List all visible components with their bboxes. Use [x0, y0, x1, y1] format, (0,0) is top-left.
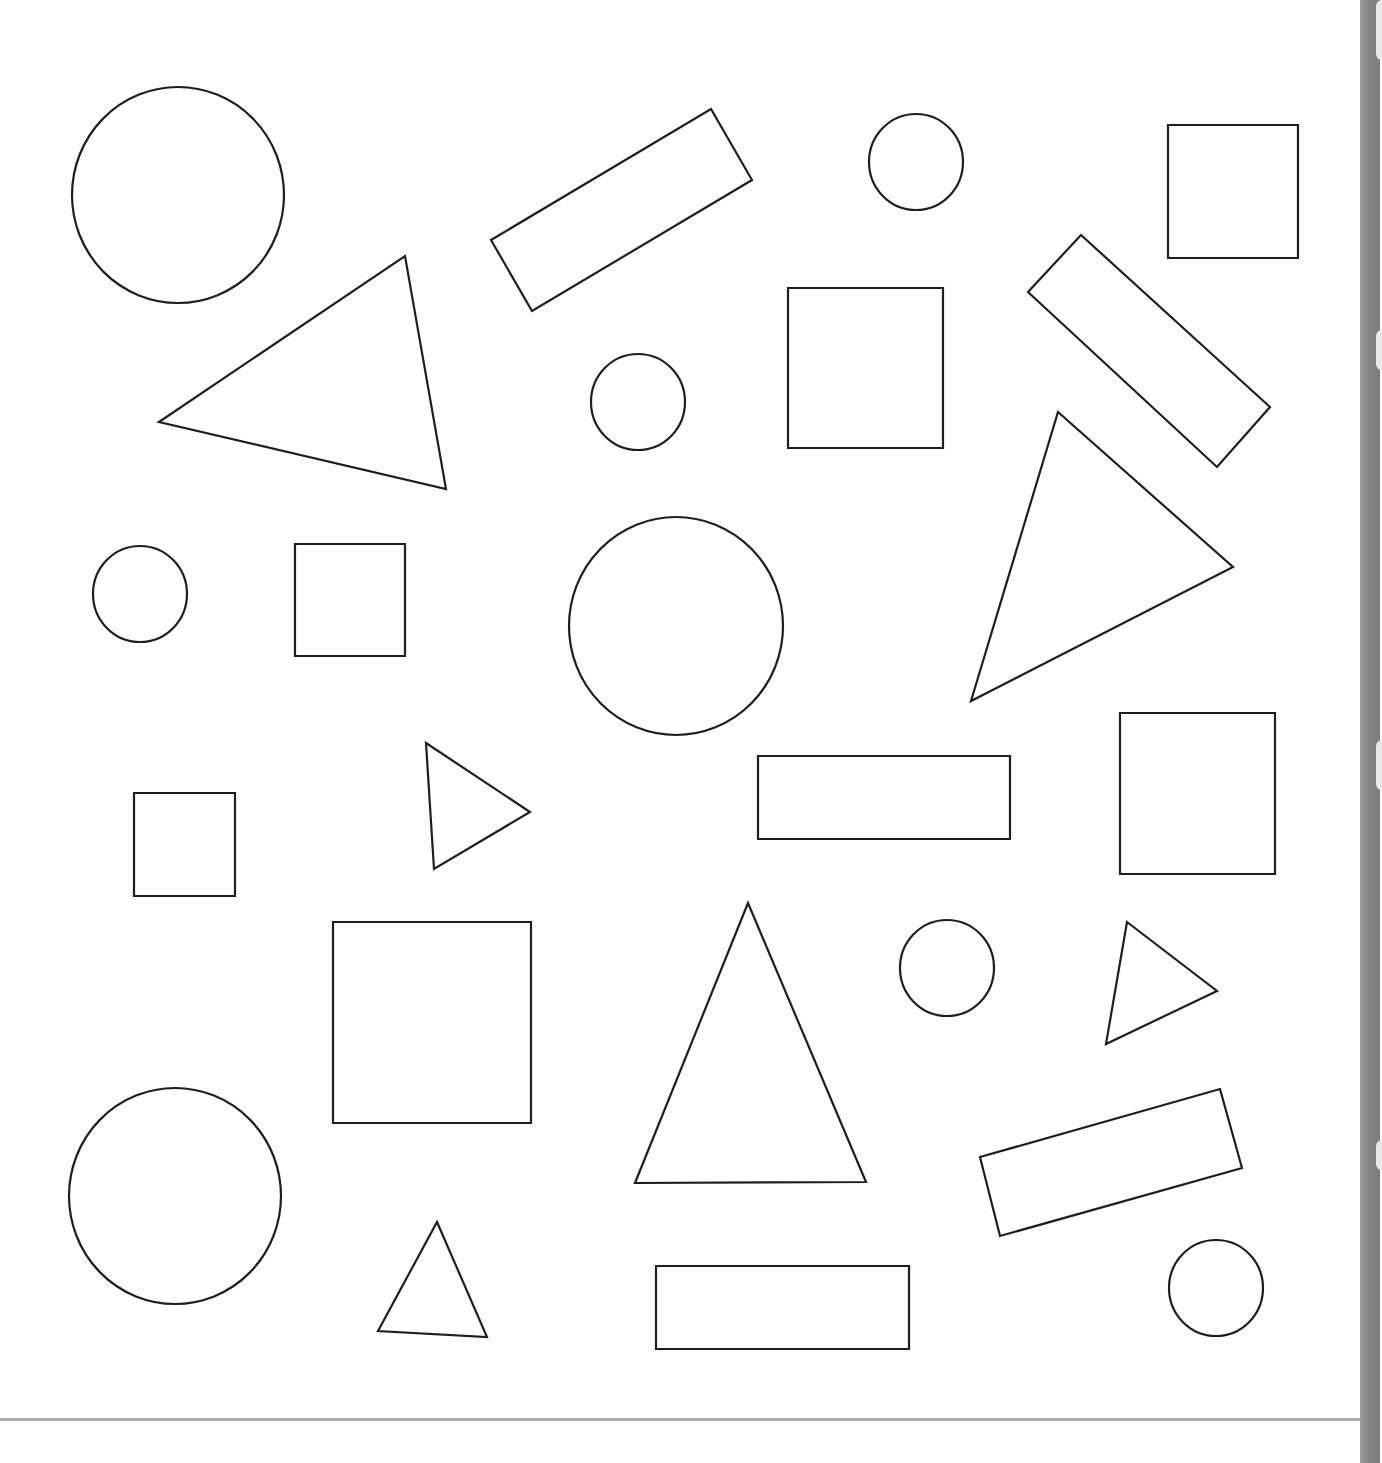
circle-shape	[869, 114, 963, 210]
binder-hole-mark	[1376, 740, 1382, 790]
square-shape	[134, 793, 235, 896]
page-edge-strip	[1360, 0, 1380, 1463]
rectangle-shape	[656, 1266, 909, 1349]
circle-shape	[93, 546, 187, 642]
triangle-shape	[635, 903, 866, 1183]
square-shape	[1120, 713, 1275, 874]
circle-shape	[1169, 1240, 1263, 1336]
triangle-shape	[1106, 922, 1217, 1044]
rectangle-shape	[1028, 235, 1270, 467]
circle-shape	[591, 354, 685, 450]
binder-hole-mark	[1376, 1140, 1382, 1170]
triangle-shape	[971, 412, 1233, 701]
binder-hole-mark	[1376, 0, 1382, 60]
square-shape	[1168, 125, 1298, 258]
circle-shape	[900, 920, 994, 1016]
page-bottom-divider	[0, 1418, 1360, 1421]
triangle-shape	[426, 743, 530, 869]
square-shape	[333, 922, 531, 1123]
worksheet-page	[0, 0, 1360, 1463]
square-shape	[788, 288, 943, 448]
triangle-shape	[159, 256, 446, 489]
rectangle-shape	[980, 1089, 1242, 1236]
rectangle-shape	[758, 756, 1010, 839]
circle-shape	[569, 517, 783, 735]
binder-hole-mark	[1376, 330, 1382, 370]
square-shape	[295, 544, 405, 656]
circle-shape	[72, 87, 284, 303]
rectangle-shape	[491, 109, 752, 311]
shapes-canvas	[0, 0, 1360, 1418]
circle-shape	[69, 1088, 281, 1304]
triangle-shape	[378, 1222, 487, 1337]
